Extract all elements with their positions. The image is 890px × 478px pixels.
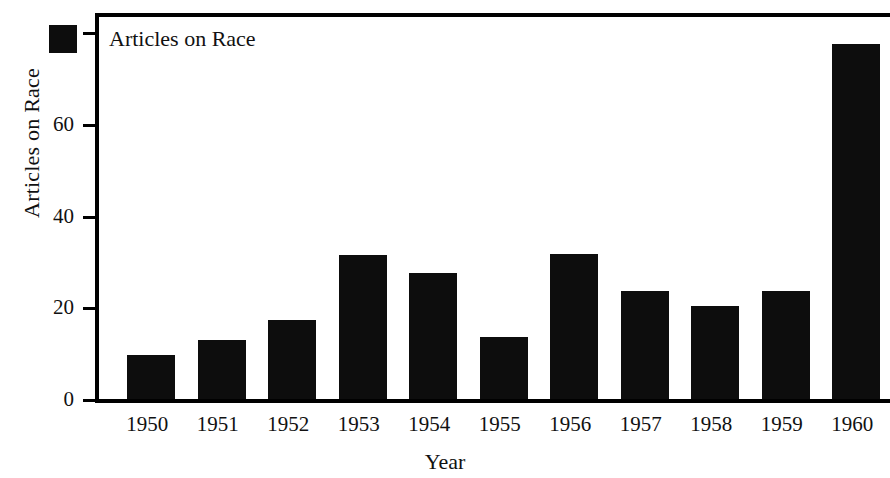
bar-1954 [409, 273, 457, 399]
x-axis-title: Year [0, 449, 890, 475]
y-axis-tick-labels: 020406080 [12, 0, 74, 478]
x-axis-tick-label: 1951 [183, 414, 253, 435]
bar-1953 [339, 255, 387, 399]
y-axis-tick-label: 60 [16, 114, 74, 135]
x-axis-tick-label: 1955 [465, 414, 535, 435]
bar-1959 [762, 291, 810, 399]
x-axis-tick-label: 1950 [112, 414, 182, 435]
x-axis-tick-label: 1953 [324, 414, 394, 435]
x-axis-tick-label: 1959 [747, 414, 817, 435]
bar-1956 [550, 254, 598, 399]
bar-1955 [480, 337, 528, 399]
bar-1951 [198, 340, 246, 399]
legend-label-articles-on-race: Articles on Race [109, 26, 256, 52]
bar-1952 [268, 320, 316, 399]
legend-swatch-articles-on-race [49, 25, 77, 53]
plot-area [95, 13, 890, 403]
y-axis-tick-label: 20 [16, 297, 74, 318]
x-axis-tick-label: 1956 [535, 414, 605, 435]
bar-1950 [127, 355, 175, 399]
bars-container [99, 17, 890, 399]
y-axis-tick-label: 0 [16, 389, 74, 410]
x-axis-tick-label: 1954 [394, 414, 464, 435]
bar-1960 [832, 44, 880, 399]
bar-chart-figure: Articles on Race 020406080 Articles on R… [0, 0, 890, 478]
x-axis-tick-label: 1960 [817, 414, 887, 435]
x-axis-tick-label: 1952 [253, 414, 323, 435]
bar-1957 [621, 291, 669, 399]
legend: Articles on Race [49, 25, 256, 53]
x-axis-tick-label: 1958 [676, 414, 746, 435]
x-axis-tick-label: 1957 [606, 414, 676, 435]
y-axis-tick-label: 40 [16, 206, 74, 227]
bar-1958 [691, 306, 739, 400]
